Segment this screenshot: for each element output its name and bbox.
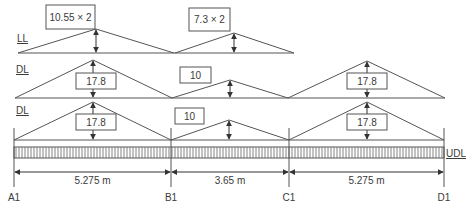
beam: UDL bbox=[14, 147, 466, 159]
load-row-dl: DL17.81017.8 bbox=[14, 102, 444, 140]
support-label: D1 bbox=[438, 192, 451, 203]
influence-triangle: 17.8 bbox=[288, 61, 445, 98]
load-rows: LL10.55 × 27.3 × 2DL17.81017.8DL17.81017… bbox=[14, 5, 445, 140]
load-value: 10 bbox=[190, 70, 202, 81]
load-value: 17.8 bbox=[86, 76, 106, 87]
load-row-dl: DL17.81017.8 bbox=[15, 60, 445, 98]
span-dimensions: 5.275 m3.65 m5.275 m bbox=[15, 172, 443, 186]
influence-triangle: 10.55 × 2 bbox=[18, 5, 174, 53]
span-length: 5.275 m bbox=[74, 175, 110, 186]
row-label: DL bbox=[16, 105, 29, 116]
influence-triangle: 17.8 bbox=[14, 102, 171, 140]
influence-triangle: 7.3 × 2 bbox=[175, 8, 294, 53]
bridge-load-diagram: LL10.55 × 27.3 × 2DL17.81017.8DL17.81017… bbox=[0, 0, 476, 214]
support-label: B1 bbox=[165, 192, 178, 203]
row-label: LL bbox=[17, 33, 29, 44]
load-value: 17.8 bbox=[86, 117, 106, 128]
support-label: C1 bbox=[283, 192, 296, 203]
span-length: 5.275 m bbox=[348, 175, 384, 186]
influence-triangle: 10 bbox=[171, 108, 289, 140]
load-value: 7.3 × 2 bbox=[194, 14, 225, 25]
support-label: A1 bbox=[8, 192, 21, 203]
load-value: 10.55 × 2 bbox=[50, 12, 92, 23]
udl-label: UDL bbox=[446, 148, 466, 159]
load-value: 17.8 bbox=[357, 117, 377, 128]
load-row-ll: LL10.55 × 27.3 × 2 bbox=[17, 5, 294, 53]
span-length: 3.65 m bbox=[215, 175, 246, 186]
row-label: DL bbox=[16, 64, 29, 75]
influence-triangle: 17.8 bbox=[15, 60, 172, 98]
influence-triangle: 17.8 bbox=[289, 102, 444, 140]
supports: A1B1C1D1 bbox=[8, 128, 451, 203]
load-value: 17.8 bbox=[357, 76, 377, 87]
influence-triangle: 10 bbox=[172, 67, 288, 98]
load-value: 10 bbox=[184, 111, 196, 122]
